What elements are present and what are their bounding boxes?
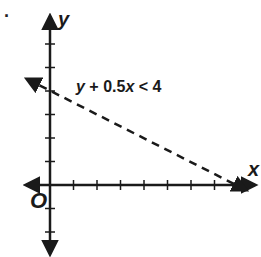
boundary-line-dashed bbox=[27, 79, 246, 190]
x-axis-label: x bbox=[247, 158, 260, 180]
origin-label: O bbox=[30, 188, 47, 213]
inequality-label: y + 0.5x < 4 bbox=[75, 78, 162, 95]
y-axis-label: y bbox=[57, 8, 70, 30]
coordinate-plane: y x O y + 0.5x < 4 bbox=[0, 0, 261, 257]
